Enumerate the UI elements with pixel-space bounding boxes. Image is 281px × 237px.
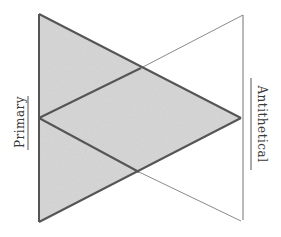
antithetical-cone-lower-edge — [139, 172, 241, 221]
diagram-canvas: Primary Antithetical — [0, 0, 281, 237]
antithetical-cone-upper-edge — [141, 15, 243, 68]
primary-label: Primary — [14, 96, 26, 148]
antithetical-label: Antithetical — [256, 85, 268, 162]
primary-cone-fill — [39, 14, 241, 222]
cones-diagram — [0, 0, 281, 237]
